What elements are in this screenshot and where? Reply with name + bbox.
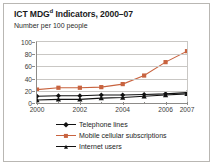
y-tick-label: 20 bbox=[10, 87, 32, 94]
x-tick-label: 2002 bbox=[73, 106, 88, 113]
y-tick-label: 100 bbox=[10, 39, 32, 46]
x-tick-label: 2007 bbox=[180, 106, 195, 113]
chart-subtitle: Number per 100 people bbox=[14, 22, 88, 29]
x-axis-labels: 20002002200420062007 bbox=[36, 106, 188, 118]
y-tick-mark bbox=[32, 54, 35, 55]
y-tick-mark bbox=[32, 66, 35, 67]
y-axis-labels: 020406080100 bbox=[8, 41, 32, 104]
x-tick-mark-minor bbox=[101, 102, 102, 104]
legend-marker-triangle-icon bbox=[56, 142, 76, 151]
series-marker bbox=[121, 82, 125, 86]
legend-item[interactable]: Internet users bbox=[56, 141, 196, 152]
chart-title: ICT MDGd Indicators, 2000–07 bbox=[14, 9, 133, 19]
y-tick-mark bbox=[32, 79, 35, 80]
series-marker bbox=[142, 73, 146, 77]
series-layer bbox=[37, 42, 187, 103]
x-tick-mark bbox=[187, 102, 188, 105]
series-marker bbox=[163, 60, 167, 64]
plot-area bbox=[36, 41, 188, 104]
chart-title-rest: Indicators, 2000–07 bbox=[53, 9, 133, 19]
series-marker bbox=[185, 49, 187, 53]
x-tick-mark bbox=[80, 102, 81, 105]
legend-marker-diamond-icon bbox=[56, 120, 76, 129]
chart-title-main: ICT MDG bbox=[14, 9, 50, 19]
series-marker bbox=[99, 85, 103, 89]
x-tick-mark bbox=[37, 102, 38, 105]
y-tick-mark bbox=[32, 91, 35, 92]
x-tick-mark-minor bbox=[144, 102, 145, 104]
legend-marker-square-icon bbox=[56, 131, 76, 140]
series-marker bbox=[37, 94, 40, 99]
y-tick-mark bbox=[32, 103, 35, 104]
y-tick-label: 40 bbox=[10, 75, 32, 82]
x-tick-label: 2006 bbox=[158, 106, 173, 113]
legend-label: Internet users bbox=[79, 143, 122, 150]
y-tick-label: 80 bbox=[10, 51, 32, 58]
legend-label: Mobile cellular subscriptions bbox=[79, 132, 167, 139]
y-tick-label: 60 bbox=[10, 63, 32, 70]
x-tick-mark bbox=[166, 102, 167, 105]
series-line bbox=[37, 51, 187, 89]
x-tick-mark bbox=[123, 102, 124, 105]
chart-legend: Telephone linesMobile cellular subscript… bbox=[56, 119, 196, 152]
series-marker bbox=[56, 86, 60, 90]
x-tick-label: 2004 bbox=[115, 106, 130, 113]
x-tick-mark-minor bbox=[58, 102, 59, 104]
legend-item[interactable]: Telephone lines bbox=[56, 119, 196, 130]
legend-item[interactable]: Mobile cellular subscriptions bbox=[56, 130, 196, 141]
x-tick-label: 2000 bbox=[30, 106, 45, 113]
gridline bbox=[37, 54, 187, 55]
gridline bbox=[37, 79, 187, 80]
chart-figure: ICT MDGd Indicators, 2000–07 Number per … bbox=[0, 0, 213, 165]
y-tick-mark bbox=[32, 42, 35, 43]
gridline bbox=[37, 66, 187, 67]
legend-label: Telephone lines bbox=[79, 121, 128, 128]
series-marker bbox=[78, 86, 82, 90]
gridline bbox=[37, 91, 187, 92]
